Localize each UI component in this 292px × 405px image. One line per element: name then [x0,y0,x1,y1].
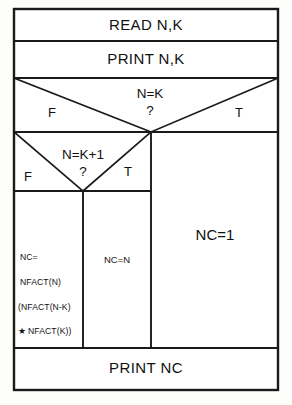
inner-condition-question-mark: ? [79,164,87,179]
flowchart-canvas: READ N,K PRINT N,K N=K ? F T N=K+1 ? F T… [0,0,292,405]
formula-line-2: NFACT(N) [20,277,61,287]
process-nc-equals-1-label: NC=1 [196,226,235,243]
process-nc-equals-n-label: NC=N [104,254,130,265]
outer-condition-true-label: T [235,105,243,120]
inner-condition-false-label: F [24,169,32,184]
print-result-block-label: PRINT NC [109,359,183,376]
nassi-shneiderman-diagram: READ N,K PRINT N,K N=K ? F T N=K+1 ? F T… [0,0,292,405]
outer-condition-question-mark: ? [146,103,154,118]
formula-line-3: (NFACT(N-K) [18,302,71,312]
read-block-label: READ N,K [109,16,183,33]
inner-condition-expression: N=K+1 [62,147,104,162]
outer-condition-expression: N=K [137,86,164,101]
print-inputs-block-label: PRINT N,K [107,50,185,67]
formula-line-4-star: ★ [18,326,26,336]
formula-line-4: NFACT(K)) [28,326,71,336]
inner-condition-true-label: T [124,164,132,179]
outer-condition-false-label: F [48,105,56,120]
formula-line-1: NC= [20,252,38,262]
